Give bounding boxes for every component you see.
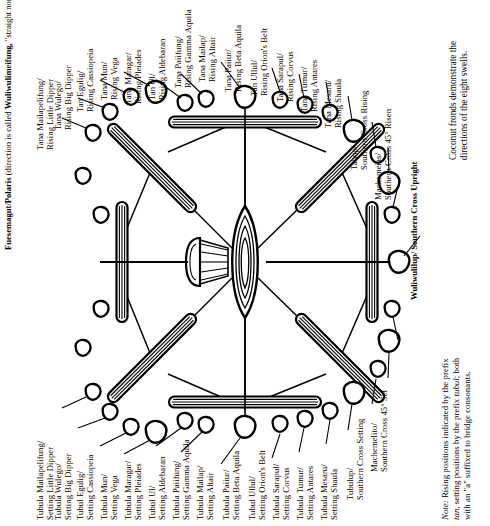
label-rising-10: Tana Sarapul/Rising Corvus (276, 51, 295, 102)
label-setting-9: Tubul Ullul/Setting Orion's Belt (248, 450, 267, 520)
label-setting-10: Tubula Sarapul/Setting Corvus (272, 464, 291, 520)
label-rising-9: Tan Ullul/Rising Orion's Belt (250, 28, 269, 96)
label-rising-8: Tana Paiiur/Rising Beta Aquila (224, 25, 243, 92)
label-rising-3: Tana Mun/Rising Vega (100, 57, 119, 100)
polaris-annotation: Fuesemagut/Polaris (direction is called … (4, 0, 14, 250)
label-rising-4: Tana Maragar/Rising Pleiades (124, 49, 143, 104)
note-lead: Note: (440, 500, 450, 520)
figure-caption: Coconut fronds demonstrate the direction… (448, 41, 471, 160)
label-rising-14: Machemeias/Southern Cross 45° Risen (374, 109, 393, 200)
label-setting-7: Tubula Mailap/Setting Altair (196, 466, 215, 520)
note-italic-tan: tan (451, 509, 461, 520)
label-setting-5: Tubul Ul/Setting Aldebaran (148, 456, 167, 520)
label-setting-14: Machemelito/Southern Cross 45° Set (370, 390, 389, 472)
label-rising-2: Tan Egulig/Rising Cassiopeia (76, 48, 95, 112)
label-setting-11: Tubula Tumur/Setting Antares (296, 466, 315, 520)
label-setting-2: Tubul Egulig/Setting Cassiopeia (76, 454, 95, 520)
label-rising-5: Tan Ul/Rising Aldebaran (148, 38, 167, 100)
label-rising-11: Tana Tumur/Rising Antares (300, 60, 319, 112)
label-setting-8: Tubula Paiiur/Setting Beta Aquila (222, 451, 241, 520)
label-setting-1: Tubula Wulego/Setting Big Dipper (54, 453, 73, 520)
label-rising-6: Tana Paiifung/Rising Gamma Aquila (174, 9, 193, 88)
label-setting-12: Tubula Mesaru/Setting Shaula (320, 464, 339, 520)
label-rising-7: Tana Mailap/Rising Altair (198, 35, 217, 82)
figure-canvas: Tana Mailapelifung/Rising Little Dipper … (0, 0, 490, 526)
note-italic-tubul: tubul (451, 378, 461, 396)
southern-cross-upright-annotation: Wuliwulilup/ Southern Cross Upright (410, 162, 420, 300)
figure-note: Note: Rising positions indicated by the … (440, 358, 474, 520)
label-setting-3: Tubula Mun/Setting Vega (100, 474, 119, 520)
label-rising-12: Tana Mesaru/Rising Shaula (324, 79, 343, 128)
label-setting-4: Tubula Maragar/Setting Pleiades (124, 461, 143, 520)
label-rising-13: Tahup/Southern Cross Rising (350, 91, 369, 170)
label-setting-6: Tubula Paiifung/Setting Gamma Aquila (172, 439, 191, 520)
label-rising-1: Tana Wulego/Rising Big Dipper (54, 65, 73, 130)
label-setting-13: Tubulup/Southern Cross Setting (346, 419, 365, 500)
